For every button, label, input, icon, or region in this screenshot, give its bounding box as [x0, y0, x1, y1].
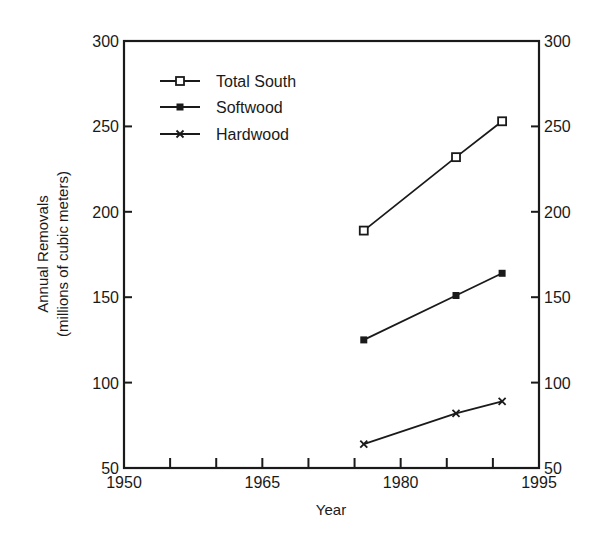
y-axis-left: 50100150200250300: [92, 33, 132, 477]
series-hardwood: [360, 398, 505, 448]
y-tick-label: 250: [92, 118, 119, 135]
series-softwood: [360, 270, 505, 344]
legend-label: Hardwood: [216, 126, 289, 143]
legend: Total SouthSoftwoodHardwood: [160, 73, 296, 143]
y-tick-label-right: 250: [544, 118, 571, 135]
y-tick-label-right: 100: [544, 375, 571, 392]
marker-filled-square: [499, 270, 506, 277]
legend-label: Softwood: [216, 99, 283, 116]
plot-frame: [124, 41, 539, 468]
y-axis-label: Annual Removals (millions of cubic meter…: [34, 171, 71, 337]
marker-open-square: [176, 77, 184, 85]
marker-filled-square: [453, 292, 460, 299]
legend-label: Total South: [216, 73, 296, 90]
x-tick-label: 1950: [106, 474, 142, 491]
marker-filled-square: [360, 336, 367, 343]
y-tick-label: 100: [92, 375, 119, 392]
y-tick-label-right: 150: [544, 289, 571, 306]
legend-item: Softwood: [160, 99, 283, 116]
y-tick-label: 300: [92, 33, 119, 50]
y-axis-subtitle: (millions of cubic meters): [54, 171, 71, 337]
marker-open-square: [498, 117, 506, 125]
line-chart: Annual Removals (millions of cubic meter…: [0, 0, 610, 543]
y-axis-title: Annual Removals: [34, 195, 51, 313]
legend-item: Hardwood: [160, 126, 289, 143]
x-tick-label: 1965: [245, 474, 281, 491]
y-tick-label: 150: [92, 289, 119, 306]
x-tick-label: 1995: [521, 474, 557, 491]
x-axis-title: Year: [316, 501, 346, 518]
x-tick-label: 1980: [383, 474, 419, 491]
y-tick-label: 200: [92, 204, 119, 221]
legend-item: Total South: [160, 73, 296, 90]
y-axis-right: 50100150200250300: [531, 33, 571, 477]
marker-filled-square: [177, 104, 184, 111]
series-total-south: [360, 117, 506, 234]
y-tick-label-right: 300: [544, 33, 571, 50]
y-tick-label-right: 200: [544, 204, 571, 221]
x-axis: 1950196519801995: [106, 458, 557, 491]
data-series: [360, 117, 506, 447]
marker-open-square: [360, 227, 368, 235]
marker-open-square: [452, 153, 460, 161]
